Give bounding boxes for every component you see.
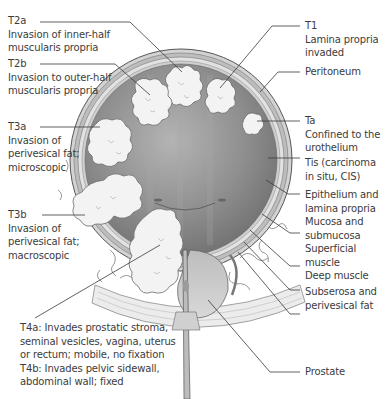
label-superficial-muscle-desc-1: Superficial xyxy=(305,242,356,256)
label-t3b-desc-2: perivesical fat; xyxy=(8,235,80,249)
label-t3b-desc-1: Invasion of xyxy=(8,222,80,236)
label-epithelium-desc-1: Epithelium and xyxy=(305,188,378,202)
label-t3a-desc-1: Invasion of xyxy=(8,134,80,148)
label-subserosa-desc-2: perivesical fat xyxy=(305,299,377,313)
label-t4-line-4: T4b: Invades pelvic sidewall, xyxy=(20,362,176,376)
label-t3b: T3b Invasion of perivesical fat; macrosc… xyxy=(8,208,80,262)
label-t4: T4a: Invades prostatic stroma, seminal v… xyxy=(20,321,176,389)
label-tis-desc-1: Tis (carcinoma xyxy=(305,156,376,170)
label-t1: T1 Lamina propria invaded xyxy=(305,19,379,60)
label-ta-code: Ta xyxy=(305,114,380,128)
label-prostate: Prostate xyxy=(305,365,345,379)
label-epithelium-desc-2: lamina propria xyxy=(305,202,378,216)
label-subserosa-desc-1: Subserosa and xyxy=(305,285,377,299)
label-subserosa: Subserosa and perivesical fat xyxy=(305,285,377,312)
label-peritoneum-text: Peritoneum xyxy=(305,65,361,79)
label-deep-muscle-text: Deep muscle xyxy=(305,269,369,283)
label-ta-desc-1: Confined to the xyxy=(305,128,380,142)
label-t1-desc-2: invaded xyxy=(305,46,379,60)
label-t1-desc-1: Lamina propria xyxy=(305,33,379,47)
label-t4-line-2: seminal vesicles, vagina, uterus xyxy=(20,335,176,349)
label-t4-line-5: abdominal wall; fixed xyxy=(20,375,176,389)
bladder-staging-diagram: T2a Invasion of inner-half muscularis pr… xyxy=(0,0,391,399)
label-t2b-desc-1: Invasion to outer-half xyxy=(8,71,111,85)
label-peritoneum: Peritoneum xyxy=(305,65,361,79)
label-superficial-muscle-desc-2: muscle xyxy=(305,256,356,270)
label-tis: Tis (carcinoma in situ, CIS) xyxy=(305,156,376,183)
label-tis-desc-2: in situ, CIS) xyxy=(305,170,376,184)
label-t2a-desc-2: muscularis propria xyxy=(8,41,110,55)
label-t4-line-1: T4a: Invades prostatic stroma, xyxy=(20,321,176,335)
label-deep-muscle: Deep muscle xyxy=(305,269,369,283)
label-t2b: T2b Invasion to outer-half muscularis pr… xyxy=(8,57,111,98)
label-t2a-desc-1: Invasion of inner-half xyxy=(8,28,110,42)
label-t3a: T3a Invasion of perivesical fat; microsc… xyxy=(8,120,80,174)
tumor-t3a xyxy=(87,119,132,167)
label-ta-desc-2: urothelium xyxy=(305,141,380,155)
label-mucosa-desc-1: Mucosa and xyxy=(305,215,363,229)
label-t1-code: T1 xyxy=(305,19,379,33)
label-t2b-desc-2: muscularis propria xyxy=(8,84,111,98)
label-t2a: T2a Invasion of inner-half muscularis pr… xyxy=(8,14,110,55)
label-mucosa-desc-2: submucosa xyxy=(305,229,363,243)
label-ta: Ta Confined to the urothelium xyxy=(305,114,380,155)
label-t2b-code: T2b xyxy=(8,57,111,71)
label-epithelium: Epithelium and lamina propria xyxy=(305,188,378,215)
label-prostate-text: Prostate xyxy=(305,365,345,379)
label-t3b-code: T3b xyxy=(8,208,80,222)
label-mucosa: Mucosa and submucosa xyxy=(305,215,363,242)
label-t3a-desc-3: microscopic xyxy=(8,161,80,175)
label-t3b-desc-3: macroscopic xyxy=(8,249,80,263)
tumor-t1 xyxy=(205,78,236,113)
label-t3a-code: T3a xyxy=(8,120,80,134)
label-t4-line-3: or rectum; mobile, no fixation xyxy=(20,348,176,362)
label-t2a-code: T2a xyxy=(8,14,110,28)
label-superficial-muscle: Superficial muscle xyxy=(305,242,356,269)
label-t3a-desc-2: perivesical fat; xyxy=(8,147,80,161)
